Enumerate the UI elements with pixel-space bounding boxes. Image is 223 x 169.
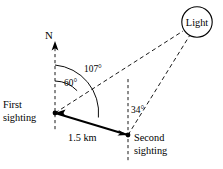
second-sighting-label-line2: sighting [134,145,167,156]
first-sighting-label-line1: First [3,99,22,110]
light-label: Light [186,17,208,28]
diagram-canvas: N 60° 107° 34° First sighting Second sig… [0,0,223,169]
north-reference-line-first-sighting [52,41,59,131]
first-sighting-dot [53,111,58,116]
north-label: N [45,29,53,41]
sight-line-first-to-light [55,31,183,113]
bearing-diagram: N 60° 107° 34° First sighting Second sig… [0,0,223,169]
angle-label-60: 60° [64,78,77,88]
distance-label: 1.5 km [68,132,97,143]
angle-label-107: 107° [84,64,102,74]
angle-label-34: 34° [131,105,144,115]
second-sighting-dot [126,133,131,138]
first-sighting-label-line2: sighting [3,112,36,123]
second-sighting-vertex [117,130,130,137]
sight-line-second-to-light [128,35,190,135]
second-sighting-label-line1: Second [134,132,165,143]
